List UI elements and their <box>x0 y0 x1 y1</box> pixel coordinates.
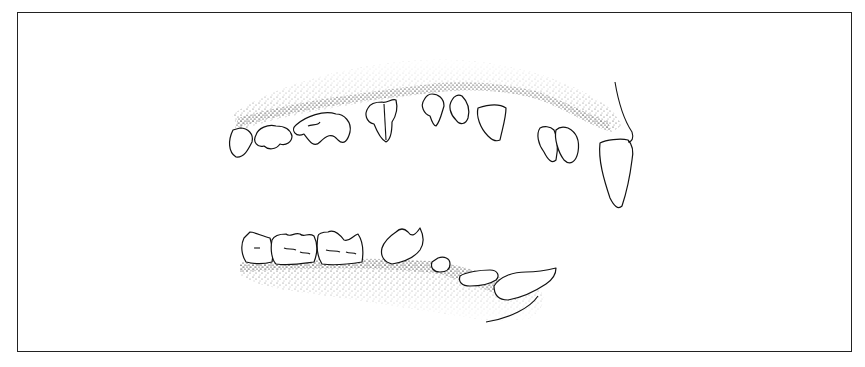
upper-molar-1 <box>230 128 253 157</box>
upper-molar-2 <box>255 125 292 148</box>
upper-lip-line <box>615 82 633 142</box>
upper-incisor-2 <box>538 127 557 162</box>
upper-incisor-3 <box>477 105 506 141</box>
lower-canine <box>494 268 556 300</box>
upper-premolar-2 <box>422 94 444 126</box>
lower-premolar-4 <box>317 231 363 265</box>
upper-premolar-1 <box>450 95 469 123</box>
upper-canine <box>600 139 633 207</box>
upper-incisor-1 <box>555 127 578 163</box>
lower-premolar-3 <box>381 228 423 264</box>
upper-premolar-3 <box>366 100 397 142</box>
jaw-illustration <box>0 0 865 367</box>
lower-premolar-2 <box>431 257 450 272</box>
upper-premolar-4 <box>294 113 351 145</box>
